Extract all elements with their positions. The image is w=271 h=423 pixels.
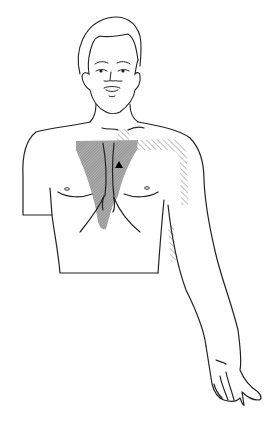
mouth-upper xyxy=(104,87,120,89)
chin xyxy=(109,96,115,97)
torso xyxy=(23,122,261,405)
mouth-lower xyxy=(106,90,118,92)
face-features xyxy=(95,62,130,97)
nose xyxy=(104,81,122,82)
primary-pain-area xyxy=(76,140,138,229)
head xyxy=(78,17,141,122)
anatomical-figure xyxy=(0,0,271,423)
left-eyebrow xyxy=(95,62,108,64)
body-illustration xyxy=(0,0,271,423)
right-eyebrow xyxy=(117,62,130,64)
